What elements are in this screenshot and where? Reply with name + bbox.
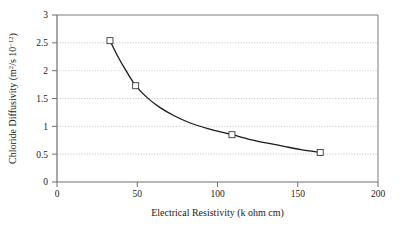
- x-tick-label-100: 100: [210, 189, 225, 199]
- y-axis-title-text: Chloride Diffusivity (m2/s 10−12): [7, 33, 19, 164]
- x-axis-title: Electrical Resistivity (k ohm cm): [151, 207, 284, 219]
- y-axis-title: Chloride Diffusivity (m2/s 10−12): [7, 33, 19, 164]
- x-tick-label-200: 200: [371, 189, 386, 199]
- x-tick-label-0: 0: [55, 189, 60, 199]
- data-point-3: [229, 132, 235, 138]
- y-axis-ticks: [52, 15, 57, 182]
- y-tick-label-1: 1: [43, 122, 48, 132]
- y-tick-label-0: 0: [43, 177, 48, 187]
- y-tick-label-2: 2: [43, 66, 48, 76]
- x-axis-ticks: [57, 182, 378, 187]
- chart-canvas: 0 0.5 1 1.5 2 2.5 3 0 50 100 150 200: [0, 0, 404, 229]
- x-axis-tick-labels: 0 50 100 150 200: [55, 189, 386, 199]
- data-point-4: [317, 150, 323, 156]
- x-tick-label-50: 50: [133, 189, 143, 199]
- y-tick-label-3: 3: [43, 10, 48, 20]
- y-tick-label-2.5: 2.5: [36, 38, 48, 48]
- data-point-1: [107, 38, 113, 44]
- y-tick-label-1.5: 1.5: [36, 94, 48, 104]
- data-point-2: [133, 83, 139, 89]
- y-axis-tick-labels: 0 0.5 1 1.5 2 2.5 3: [36, 10, 48, 187]
- y-axis-title-main: Chloride Diffusivity (m: [7, 69, 19, 164]
- y-axis-title-tail: ): [7, 33, 19, 36]
- y-tick-label-0.5: 0.5: [36, 150, 48, 160]
- y-axis-title-superscript-exp: −12: [7, 36, 14, 46]
- x-tick-label-150: 150: [291, 189, 306, 199]
- chart-figure: 0 0.5 1 1.5 2 2.5 3 0 50 100 150 200: [0, 0, 404, 229]
- y-axis-title-mid: /s 10: [7, 47, 18, 66]
